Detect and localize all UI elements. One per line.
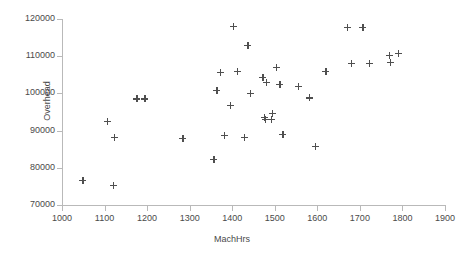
scatter-chart: 700008000090000100000110000120000 100011…: [0, 0, 464, 254]
x-tick-mark: [445, 206, 446, 211]
x-tick-label: 1500: [255, 214, 295, 223]
y-tick-label: 70000: [7, 200, 55, 209]
x-tick-label: 1800: [382, 214, 422, 223]
x-tick-label: 1300: [170, 214, 210, 223]
x-tick-mark: [275, 206, 276, 211]
x-tick-label: 1400: [212, 214, 252, 223]
x-tick-label: 1200: [127, 214, 167, 223]
plot-area: [62, 19, 445, 205]
y-tick-label: 120000: [7, 14, 55, 23]
x-tick-label: 1600: [297, 214, 337, 223]
x-tick-mark: [232, 206, 233, 211]
x-tick-mark: [317, 206, 318, 211]
x-tick-label: 1000: [42, 214, 82, 223]
x-tick-label: 1100: [85, 214, 125, 223]
x-tick-mark: [360, 206, 361, 211]
y-tick-label: 80000: [7, 163, 55, 172]
x-tick-mark: [190, 206, 191, 211]
x-tick-label: 1700: [340, 214, 380, 223]
y-axis-title: Overhead: [42, 41, 52, 161]
x-tick-mark: [147, 206, 148, 211]
x-axis-line: [62, 205, 446, 206]
x-axis-title: MachHrs: [0, 234, 464, 244]
x-tick-mark: [62, 206, 63, 211]
x-tick-mark: [105, 206, 106, 211]
x-tick-mark: [402, 206, 403, 211]
x-tick-label: 1900: [425, 214, 464, 223]
